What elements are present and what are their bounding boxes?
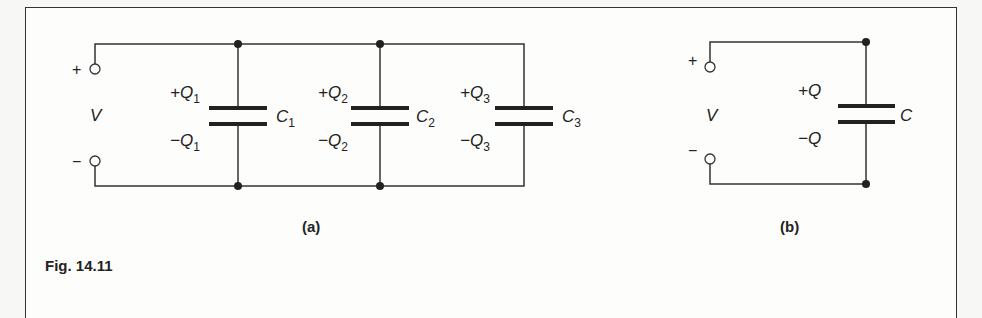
top-wire-b — [710, 42, 866, 106]
source-plus-label-b: + — [688, 52, 697, 69]
c1-label: C1 — [276, 107, 295, 130]
voltage-label-b: V — [706, 106, 719, 125]
terminal-minus-a — [90, 156, 100, 166]
terminal-minus-b — [705, 154, 715, 164]
capacitor-c-plate-top — [838, 104, 895, 108]
panel-b-label: (b) — [780, 218, 799, 235]
voltage-label-a: V — [90, 106, 103, 125]
terminal-plus-a — [90, 64, 100, 74]
c2-plus-charge: +Q2 — [318, 83, 348, 106]
capacitor-c1-plate-bottom — [209, 122, 267, 126]
terminal-plus-b — [705, 62, 715, 72]
c-plus-charge: +Q — [798, 81, 821, 100]
junction-dot — [234, 182, 242, 190]
junction-dot — [234, 40, 242, 48]
source-plus-label-a: + — [72, 61, 81, 78]
junction-dot — [862, 180, 870, 188]
capacitor-c3-plate-bottom — [495, 122, 553, 126]
panel-b-circuit — [710, 42, 866, 184]
c-minus-charge: −Q — [798, 129, 821, 148]
capacitor-plates-a — [209, 106, 553, 126]
capacitor-c2-plate-bottom — [351, 122, 409, 126]
c2-label: C2 — [416, 107, 435, 130]
panel-a-circuit — [95, 44, 524, 186]
c3-plus-charge: +Q3 — [460, 83, 490, 106]
capacitor-c2-plate-top — [351, 106, 409, 110]
c3-label: C3 — [562, 107, 581, 130]
c1-plus-charge: +Q1 — [170, 83, 200, 106]
capacitor-c3-plate-top — [495, 106, 553, 110]
c1-minus-charge: −Q1 — [170, 131, 200, 154]
bottom-wire-b — [710, 122, 866, 184]
capacitor-c-plate-bottom — [838, 120, 895, 124]
source-minus-label-b: − — [688, 142, 697, 159]
c3-minus-charge: −Q3 — [460, 131, 490, 154]
junction-dot — [376, 182, 384, 190]
capacitor-c1-plate-top — [209, 106, 267, 110]
panel-a-label: (a) — [302, 218, 320, 235]
junction-dot — [862, 38, 870, 46]
junction-dot — [376, 40, 384, 48]
c-label: C — [900, 106, 913, 125]
source-minus-label-a: − — [72, 153, 81, 170]
c2-minus-charge: −Q2 — [318, 131, 348, 154]
figure-caption: Fig. 14.11 — [45, 257, 113, 274]
